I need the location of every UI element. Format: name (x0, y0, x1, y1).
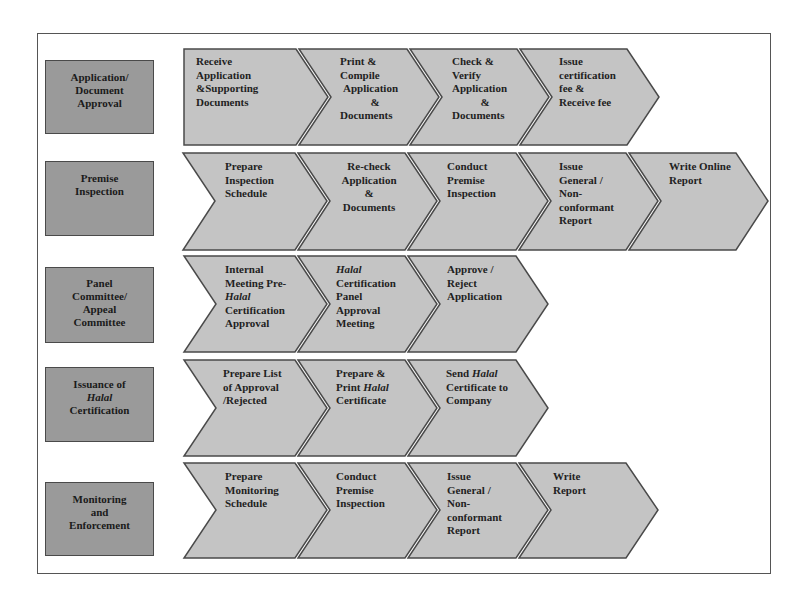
step-conduct-premise-inspection: Conduct Premise Inspection (447, 160, 496, 201)
step-receive-application: Receive Application &Supporting Document… (196, 55, 258, 109)
step-check-verify: Check & Verify Application & Documents (452, 55, 518, 123)
send-halal-line: Send Halal (446, 367, 508, 381)
print-halal-line: Print Halal (336, 381, 389, 395)
step-write-online-report: Write Online Report (669, 160, 731, 187)
step-conduct-premise-inspection-2: Conduct Premise Inspection (336, 470, 385, 511)
step-write-report: Write Report (553, 470, 586, 497)
step-prepare-monitoring-schedule: Prepare Monitoring Schedule (225, 470, 279, 511)
step-panel-approval-meeting: Halal Certification Panel Approval Meeti… (336, 263, 396, 331)
step-send-certificate: Send Halal Certificate to Company (446, 367, 508, 408)
step-issue-nonconformant-report-2: Issue General / Non- conformant Report (447, 470, 502, 538)
step-prepare-list: Prepare List of Approval /Rejected (223, 367, 282, 408)
step-approve-reject: Approve / Reject Application (447, 263, 502, 304)
step-prepare-inspection-schedule: Prepare Inspection Schedule (225, 160, 274, 201)
step-recheck-application: Re-check Application & Documents (334, 160, 404, 214)
step-print-compile: Print & Compile Application & Documents (340, 55, 410, 123)
step-issue-nonconformant-report: Issue General / Non- conformant Report (559, 160, 614, 228)
step-internal-meeting: Internal Meeting Pre- Halal Certificatio… (225, 263, 286, 331)
step-prepare-print-certificate: Prepare & Print Halal Certificate (336, 367, 389, 408)
step-issue-certification-fee: Issue certification fee & Receive fee (559, 55, 616, 109)
